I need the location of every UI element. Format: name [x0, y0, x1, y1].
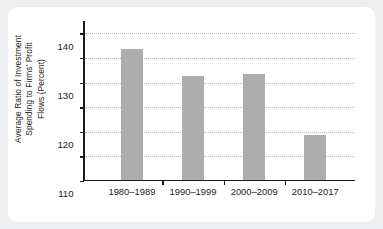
chart-card: Average Ratio of Investment Spending to … — [8, 7, 375, 222]
bar — [243, 74, 265, 180]
y-axis-tick: 90 — [80, 156, 84, 157]
x-axis-tick — [162, 181, 163, 185]
y-axis-tick: 140 — [80, 33, 84, 34]
y-axis-tick-label: 130 — [57, 89, 73, 100]
y-axis-tick-label: 110 — [58, 188, 73, 199]
y-axis-tick: 120 — [80, 83, 84, 84]
x-axis-tick-label: 1990–1999 — [170, 186, 217, 197]
x-axis-tick — [285, 181, 286, 185]
bar — [182, 76, 204, 179]
y-axis-tick: 110 — [80, 107, 84, 108]
y-axis-title: Average Ratio of Investment Spending to … — [8, 4, 52, 174]
x-axis-tick — [224, 181, 225, 185]
gridline — [85, 33, 355, 34]
y-axis-tick-label: 120 — [57, 139, 73, 150]
plot-area: 8090100110120130140 1980–19891990–199920… — [83, 21, 355, 181]
bar — [121, 49, 143, 179]
x-axis-tick-label: 1980–1989 — [108, 186, 155, 197]
bar — [304, 135, 326, 179]
x-axis-tick-label: 2010–2017 — [292, 186, 339, 197]
x-axis-line — [83, 180, 355, 182]
y-axis-tick: 100 — [80, 132, 84, 133]
y-axis-tick: 130 — [80, 58, 84, 59]
bar-chart-figure: Average Ratio of Investment Spending to … — [8, 7, 375, 222]
y-axis-tick: 80 — [80, 181, 84, 182]
x-axis-tick-label: 2000–2009 — [231, 186, 278, 197]
y-axis-tick-label: 140 — [57, 40, 73, 51]
